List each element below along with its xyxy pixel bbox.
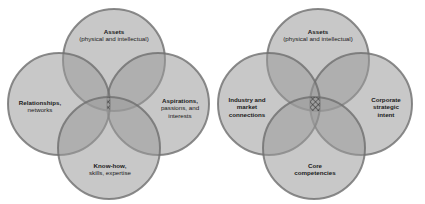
- label-knowhow: Know-how, skills, expertise: [70, 162, 150, 177]
- label-industry-market: Industry and market connections: [219, 96, 275, 118]
- label-aspirations: Aspirations, passions, and interests: [150, 97, 210, 119]
- label-core-competencies: Core competencies: [275, 162, 355, 177]
- label-corporate-strategic-intent: Corporate strategic intent: [358, 96, 414, 118]
- circle-knowhow: [58, 97, 160, 199]
- venn-diagram-individual: Assets (physical and intellectual) Relat…: [0, 0, 212, 204]
- venn-diagram-corporate: Assets (physical and intellectual) Indus…: [213, 0, 425, 204]
- circle-core-competencies: [263, 97, 365, 199]
- label-assets: Assets (physical and intellectual): [64, 28, 164, 43]
- label-assets: Assets (physical and intellectual): [268, 28, 368, 43]
- label-relationships: Relationships, networks: [10, 99, 70, 114]
